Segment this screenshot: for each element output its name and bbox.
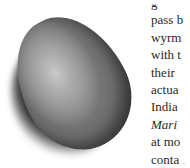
text-line: actua	[151, 81, 190, 98]
text-line: conta	[151, 151, 190, 168]
text-line-italic: Mari	[151, 116, 190, 133]
body-text-column: g pass b wyrm with t their actua India M…	[151, 0, 190, 168]
text-line: with t	[151, 46, 190, 63]
text-line: pass b	[151, 11, 190, 28]
text-line: India	[151, 98, 190, 115]
egg-figure	[0, 0, 145, 168]
page-speck	[183, 163, 185, 164]
text-line: g	[151, 0, 190, 11]
text-line: their	[151, 64, 190, 81]
text-line: wyrm	[151, 29, 190, 46]
text-line: at mo	[151, 133, 190, 150]
egg-illustration	[0, 0, 151, 168]
